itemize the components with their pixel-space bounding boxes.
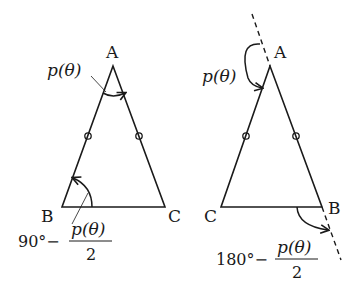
right-triangle [221,66,322,207]
right-base-angle-numerator: p(θ) [277,237,311,257]
left-apex-angle-arc [103,93,125,96]
left-vertex-b: B [41,206,54,226]
left-base-angle-arc [73,178,92,207]
left-apex-leader [91,76,106,92]
right-base-angle-denominator: 2 [292,263,302,282]
right-vertex-a: A [273,42,287,62]
left-base-angle-prefix: 90°− [18,232,60,251]
left-base-angle-label: 90°− p(θ) 2 [18,219,112,264]
right-vertex-c: C [204,206,217,226]
left-figure: A B C p(θ) 90°− p(θ) 2 [18,42,181,264]
right-figure: A C B p(θ) 180°− p(θ) 2 [202,14,341,282]
left-vertex-a: A [105,42,119,62]
right-apex-angle-arc [245,44,262,88]
right-vertex-b: B [328,198,341,218]
left-base-angle-numerator: p(θ) [71,219,105,239]
left-apex-angle-label: p(θ) [47,60,81,80]
right-base-angle-label: 180°− p(θ) 2 [216,237,318,282]
right-apex-angle-label: p(θ) [202,66,236,86]
left-base-angle-denominator: 2 [86,245,96,264]
left-triangle [62,66,165,207]
right-base-angle-prefix: 180°− [216,250,268,269]
right-extension-top [252,14,270,66]
left-vertex-c: C [168,206,181,226]
diagram-canvas: A B C p(θ) 90°− p(θ) 2 A C B p(θ) 180°− … [0,0,363,298]
